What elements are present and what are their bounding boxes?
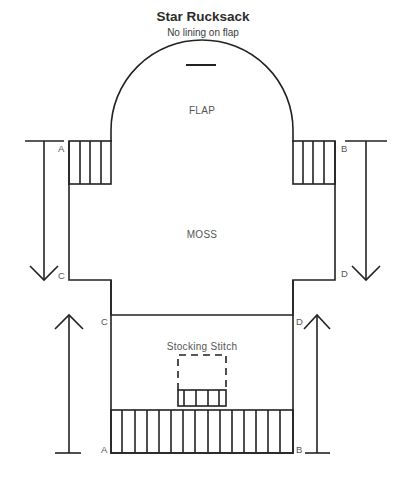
arrow-up-right-icon xyxy=(304,315,330,453)
flap-outline xyxy=(111,40,293,142)
corner-label-b-bottom: B xyxy=(296,444,302,455)
corner-label-c-mid: C xyxy=(58,270,65,281)
moss-body-outline xyxy=(69,141,335,315)
bottom-rib-lines xyxy=(122,410,280,453)
bottom-rib-band xyxy=(111,410,293,453)
moss-label: MOSS xyxy=(176,229,228,240)
lower-body-outline xyxy=(111,280,293,453)
arrow-up-left-icon xyxy=(55,315,83,453)
corner-label-d-mid: D xyxy=(341,268,348,279)
corner-label-c-lower: C xyxy=(101,316,108,327)
right-rib-box xyxy=(293,141,335,184)
corner-label-a-bottom: A xyxy=(101,444,107,455)
flap-label: FLAP xyxy=(176,105,228,116)
corner-label-a-top: A xyxy=(58,143,64,154)
corner-label-b-top: B xyxy=(341,143,347,154)
pocket-dashed-outline xyxy=(178,355,226,390)
arrow-down-right-icon xyxy=(345,141,387,280)
stocking-stitch-label: Stocking Stitch xyxy=(152,341,252,352)
arrow-down-left-icon xyxy=(25,141,64,280)
corner-label-d-lower: D xyxy=(296,316,303,327)
